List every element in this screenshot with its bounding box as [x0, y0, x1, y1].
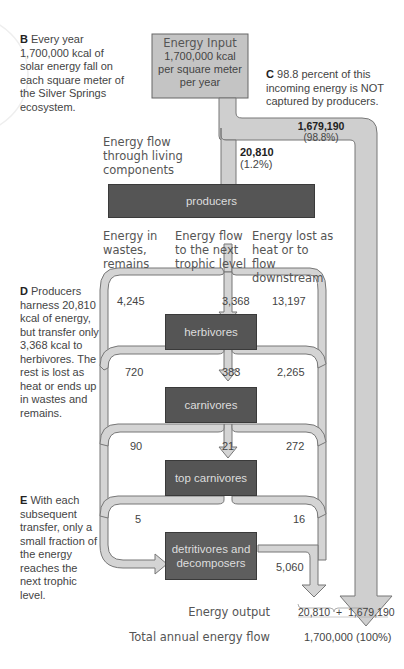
annotation-text: Every year 1,700,000 kcal of solar energ…: [20, 33, 124, 113]
annotation-text: With each subsequent transfer, only a sm…: [20, 494, 97, 601]
decomposer-output-value: 5,060: [276, 561, 304, 573]
annotation-letter: B: [20, 33, 28, 45]
heat-value: 272: [286, 440, 304, 452]
energy-input-box: Energy Input 1,700,000 kcal per square m…: [152, 36, 248, 89]
top-carnivores-box: top carnivores: [165, 460, 257, 496]
producers-box: producers: [108, 184, 315, 218]
detritivores-box: detritivores and decomposers: [165, 532, 257, 580]
header-next-level: Energy flow to the next trophic level: [175, 229, 250, 271]
flow-percent: (98.8%): [286, 132, 356, 144]
input-unit: per square meter: [152, 63, 248, 76]
heat-value: 16: [293, 513, 305, 525]
flow-percent: (1.2%): [240, 158, 274, 170]
next-level-value: 383: [222, 366, 240, 378]
carnivores-box: carnivores: [165, 387, 257, 423]
flow-value: 1,679,190: [286, 120, 356, 132]
herbivores-box: herbivores: [165, 314, 257, 350]
energy-output-value: 20,810 + 1,679,190: [298, 606, 395, 618]
header-wastes: Energy in wastes, remains: [103, 229, 173, 271]
header-heat: Energy lost as heat or to flow downstrea…: [252, 229, 334, 285]
captured-flow: 20,810 (1.2%): [240, 146, 274, 170]
next-level-value: 3,368: [222, 295, 250, 307]
annotation-letter: E: [20, 494, 27, 506]
total-flow-value: 1,700,000 (100%): [304, 631, 391, 643]
waste-value: 5: [135, 513, 141, 525]
annotation-text: 98.8 percent of this incoming energy is …: [266, 68, 384, 107]
waste-value: 720: [125, 366, 143, 378]
energy-output-label: Energy output: [150, 605, 270, 619]
next-level-value: 21: [222, 440, 234, 452]
annotation-c: C 98.8 percent of this incoming energy i…: [266, 68, 396, 109]
input-title: Energy Input: [152, 36, 248, 50]
annotation-d: D Producers harness 20,810 kcal of energ…: [20, 285, 100, 420]
total-flow-label: Total annual energy flow: [100, 630, 270, 644]
annotation-letter: D: [20, 285, 28, 297]
heat-value: 2,265: [277, 366, 305, 378]
flow-value: 20,810: [240, 146, 274, 158]
annotation-b: B Every year 1,700,000 kcal of solar ene…: [20, 33, 130, 114]
waste-value: 4,245: [117, 295, 145, 307]
input-value: 1,700,000 kcal: [152, 50, 248, 63]
living-components-label: Energy flow through living components: [103, 135, 198, 177]
annotation-e: E With each subsequent transfer, only a …: [20, 494, 100, 602]
not-captured-flow: 1,679,190 (98.8%): [286, 120, 356, 144]
heat-value: 13,197: [272, 295, 306, 307]
annotation-text: Producers harness 20,810 kcal of energy,…: [20, 285, 99, 419]
annotation-letter: C: [266, 68, 274, 80]
input-period: per year: [152, 76, 248, 89]
waste-value: 90: [130, 440, 142, 452]
